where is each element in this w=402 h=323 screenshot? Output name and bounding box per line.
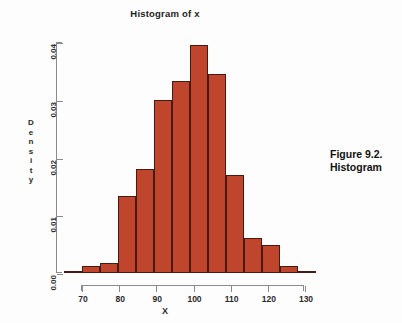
figure-root: Histogram of x Density 0.040.030.020.010… — [0, 0, 402, 323]
x-axis-tick-label: 110 — [225, 294, 239, 304]
y-axis-tick-label: 0.00 — [50, 275, 59, 291]
histogram-bar — [262, 245, 280, 273]
plot-area — [64, 42, 316, 273]
x-axis-tick: 70 — [82, 286, 83, 292]
x-axis-tick: 130 — [305, 286, 306, 292]
histogram-bar — [226, 175, 244, 273]
x-axis-tick-label: 120 — [262, 294, 276, 304]
histogram-bar — [280, 266, 298, 274]
histogram-bar — [118, 196, 136, 273]
x-axis-tick-label: 70 — [78, 294, 87, 304]
y-axis-title: Density — [24, 118, 38, 185]
x-axis-title: X — [0, 306, 330, 316]
y-axis-tick: 0.04 — [57, 43, 63, 44]
x-axis-tick: 110 — [231, 286, 232, 292]
y-axis-tick: 0.01 — [57, 216, 63, 217]
x-axis-tick-label: 100 — [187, 294, 201, 304]
y-axis-tick-label: 0.01 — [50, 217, 59, 233]
x-axis-tick-label: 130 — [299, 294, 313, 304]
y-axis-tick-label: 0.04 — [50, 44, 59, 60]
y-axis-title-letter: y — [24, 175, 38, 185]
y-axis-title-letter: s — [24, 147, 38, 157]
y-axis-title-letter: i — [24, 156, 38, 166]
y-axis: 0.040.030.020.010.00 — [56, 42, 62, 273]
x-axis-tick-label: 80 — [115, 294, 124, 304]
histogram-bar — [136, 169, 154, 273]
chart-title: Histogram of x — [0, 8, 330, 19]
figure-caption: Figure 9.2. Histogram — [330, 148, 402, 174]
y-axis-tick-label: 0.02 — [50, 160, 59, 176]
histogram-bar — [244, 238, 262, 273]
figure-caption-number: Figure 9.2. — [330, 148, 402, 161]
y-axis-title-letter: t — [24, 166, 38, 176]
x-axis-tick: 100 — [194, 286, 195, 292]
y-axis-tick-label: 0.03 — [50, 102, 59, 118]
histogram-bar — [298, 271, 316, 273]
histogram-bar — [82, 266, 100, 274]
histogram-bars — [64, 42, 316, 273]
x-axis-tick: 120 — [268, 286, 269, 292]
histogram-bar — [64, 271, 82, 273]
y-axis-title-letter: D — [24, 118, 38, 128]
y-axis-tick: 0.02 — [57, 159, 63, 160]
x-axis-tick: 80 — [119, 286, 120, 292]
histogram-bar — [154, 100, 172, 273]
histogram-plot-panel: Histogram of x Density 0.040.030.020.010… — [0, 0, 330, 323]
x-axis-tick: 90 — [156, 286, 157, 292]
histogram-bar — [208, 74, 226, 273]
figure-caption-text: Histogram — [330, 161, 402, 174]
y-axis-title-letter: e — [24, 128, 38, 138]
histogram-bar — [172, 81, 190, 273]
y-axis-tick: 0.00 — [57, 274, 63, 275]
y-axis-title-letter: n — [24, 137, 38, 147]
histogram-bar — [100, 263, 118, 273]
x-axis: 708090100110120130 — [81, 285, 304, 291]
x-axis-tick-label: 90 — [153, 294, 162, 304]
y-axis-tick: 0.03 — [57, 101, 63, 102]
histogram-bar — [190, 45, 208, 273]
